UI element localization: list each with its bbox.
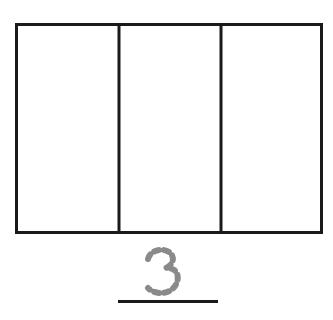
rectangle-cell-3[interactable] xyxy=(221,25,322,233)
partitioned-rectangle-figure xyxy=(15,23,323,234)
rectangle-cell-1[interactable] xyxy=(17,25,120,233)
answer-underline[interactable] xyxy=(118,300,218,303)
worksheet-canvas xyxy=(0,0,333,320)
rectangle-cell-2[interactable] xyxy=(119,25,221,233)
numeral-three-stroke xyxy=(148,250,178,293)
tracing-numeral-three xyxy=(135,246,193,300)
rectangle-outline-icon xyxy=(15,23,323,234)
numeral-three-dotted-icon xyxy=(135,246,193,300)
